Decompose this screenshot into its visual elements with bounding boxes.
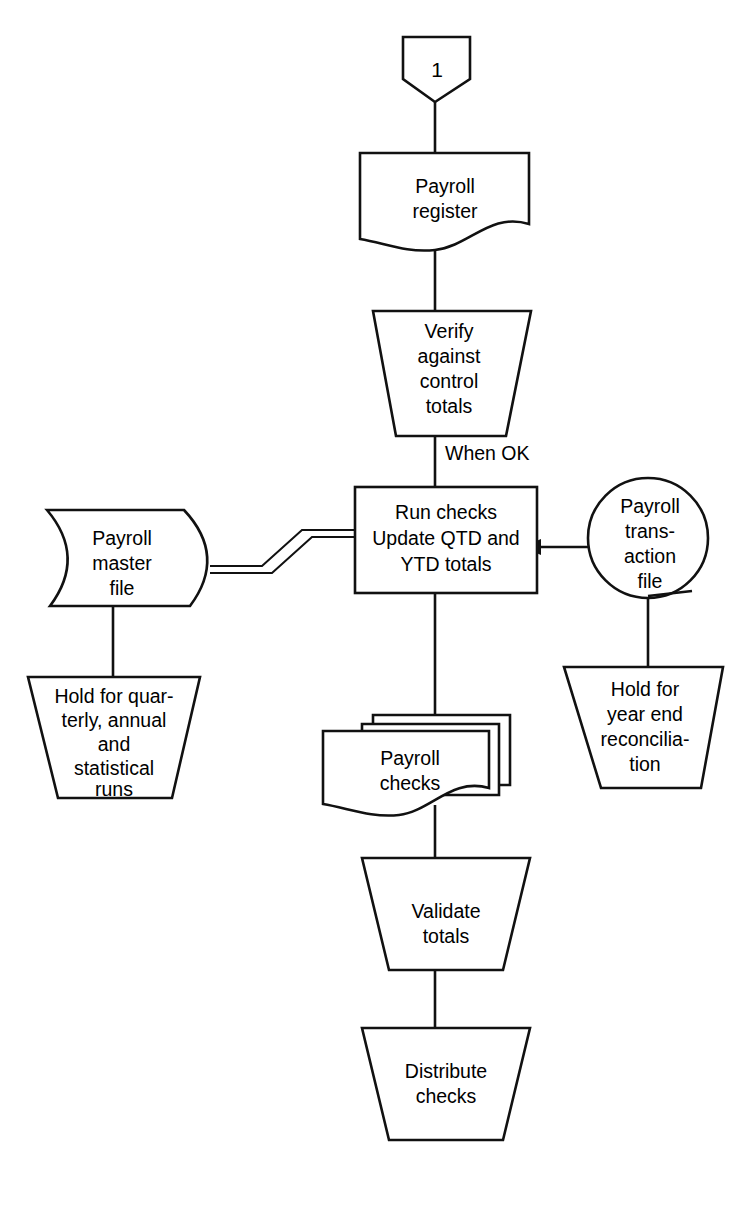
payroll-checks-line1: Payroll: [380, 747, 440, 769]
validate-totals-line2: totals: [423, 925, 470, 947]
node-payroll-master-file[interactable]: Payroll master file: [47, 510, 207, 606]
node-hold-quarterly[interactable]: Hold for quar- terly, annual and statist…: [28, 677, 200, 800]
verify-totals-line4: totals: [426, 395, 473, 417]
payroll-master-file-line3: file: [110, 577, 135, 599]
node-validate-totals[interactable]: Validate totals: [362, 858, 530, 970]
run-checks-line3: YTD totals: [400, 553, 491, 575]
payroll-transaction-file-line1: Payroll: [620, 495, 680, 517]
node-payroll-transaction-file[interactable]: Payroll trans- action file: [588, 478, 708, 598]
edge-master-to-run-upper: [210, 530, 354, 566]
hold-year-end-line4: tion: [629, 753, 660, 775]
edge-master-to-run-lower: [210, 537, 354, 573]
hold-quarterly-line2: terly, annual: [62, 709, 167, 731]
node-connector-start[interactable]: 1: [403, 37, 470, 102]
node-payroll-checks[interactable]: Payroll checks: [323, 715, 510, 816]
verify-totals-line1: Verify: [425, 320, 474, 342]
payroll-master-file-line2: master: [92, 552, 152, 574]
hold-year-end-line2: year end: [607, 703, 683, 725]
payroll-register-line2: register: [412, 200, 478, 222]
manual-operation-shape: [362, 1028, 530, 1140]
hold-year-end-line1: Hold for: [611, 678, 680, 700]
node-verify-totals[interactable]: Verify against control totals: [373, 311, 531, 436]
payroll-checks-line2: checks: [380, 772, 441, 794]
distribute-checks-line2: checks: [416, 1085, 477, 1107]
flowchart-canvas: 1 Payroll register Verify against contro…: [0, 0, 745, 1206]
node-hold-year-end[interactable]: Hold for year end reconcilia- tion: [564, 667, 723, 788]
verify-totals-line2: against: [418, 345, 481, 367]
hold-quarterly-line5: runs: [95, 778, 133, 800]
hold-year-end-line3: reconcilia-: [601, 728, 690, 750]
node-payroll-register[interactable]: Payroll register: [360, 153, 529, 251]
verify-totals-line3: control: [420, 370, 479, 392]
hold-quarterly-line3: and: [98, 733, 131, 755]
run-checks-line1: Run checks: [395, 501, 497, 523]
connector-start-label: 1: [431, 58, 443, 81]
hold-quarterly-line4: statistical: [74, 757, 154, 779]
hold-quarterly-line1: Hold for quar-: [54, 685, 173, 707]
payroll-master-file-line1: Payroll: [92, 527, 152, 549]
payroll-transaction-file-line2: trans-: [625, 520, 675, 542]
validate-totals-line1: Validate: [411, 900, 480, 922]
payroll-transaction-file-line3: action: [624, 545, 676, 567]
edge-label-when-ok: When OK: [445, 442, 530, 464]
run-checks-line2: Update QTD and: [372, 527, 519, 549]
node-run-checks[interactable]: Run checks Update QTD and YTD totals: [355, 487, 537, 593]
distribute-checks-line1: Distribute: [405, 1060, 487, 1082]
flowchart-svg: 1 Payroll register Verify against contro…: [0, 0, 745, 1206]
payroll-register-line1: Payroll: [415, 175, 475, 197]
node-distribute-checks[interactable]: Distribute checks: [362, 1028, 530, 1140]
payroll-transaction-file-line4: file: [638, 570, 663, 592]
